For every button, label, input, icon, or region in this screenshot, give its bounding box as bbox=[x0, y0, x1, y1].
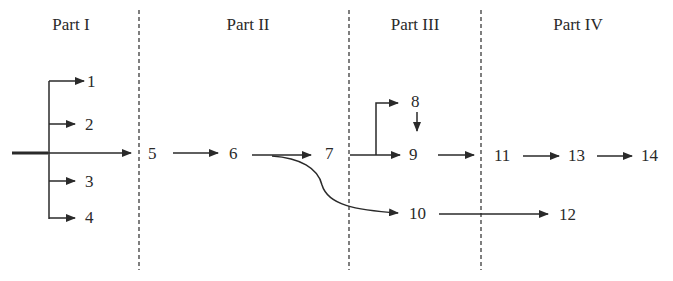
node-12: 12 bbox=[559, 206, 576, 223]
node-13: 13 bbox=[568, 147, 585, 164]
node-4: 4 bbox=[85, 209, 94, 226]
node-14: 14 bbox=[641, 147, 658, 164]
part-ii-header: Part II bbox=[227, 16, 270, 33]
node-2: 2 bbox=[85, 116, 94, 133]
node-6: 6 bbox=[229, 145, 238, 162]
node-3: 3 bbox=[85, 173, 94, 190]
node-9: 9 bbox=[409, 146, 418, 163]
part-iv-header: Part IV bbox=[553, 16, 603, 33]
diagram-canvas bbox=[0, 0, 673, 281]
arrow-to-8 bbox=[376, 103, 398, 155]
node-11: 11 bbox=[494, 147, 510, 164]
part-iii-header: Part III bbox=[391, 16, 440, 33]
node-10: 10 bbox=[409, 205, 426, 222]
node-5: 5 bbox=[148, 145, 157, 162]
part-i-header: Part I bbox=[52, 16, 89, 33]
node-1: 1 bbox=[87, 73, 96, 90]
curve-6-to-10 bbox=[272, 156, 398, 213]
node-7: 7 bbox=[325, 145, 334, 162]
node-8: 8 bbox=[411, 93, 420, 110]
